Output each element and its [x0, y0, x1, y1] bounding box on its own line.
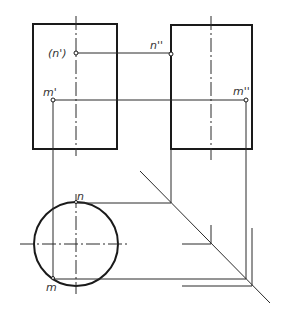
label-m-front: m' — [43, 86, 57, 99]
labels: (n') n'' m' m'' n m — [43, 39, 250, 294]
point-n-front — [74, 51, 78, 55]
label-n-side: n'' — [150, 39, 163, 52]
point-n-side — [169, 52, 173, 56]
point-m-top — [52, 277, 55, 280]
label-m-top: m — [46, 281, 57, 294]
cylinder-projection-drawing: (n') n'' m' m'' n m — [0, 0, 285, 315]
points — [51, 51, 248, 280]
label-n-front: (n') — [48, 47, 67, 60]
miter-line-45deg — [140, 171, 270, 303]
label-n-top: n — [77, 190, 84, 203]
label-m-side: m'' — [233, 85, 250, 98]
point-m-side — [244, 98, 248, 102]
